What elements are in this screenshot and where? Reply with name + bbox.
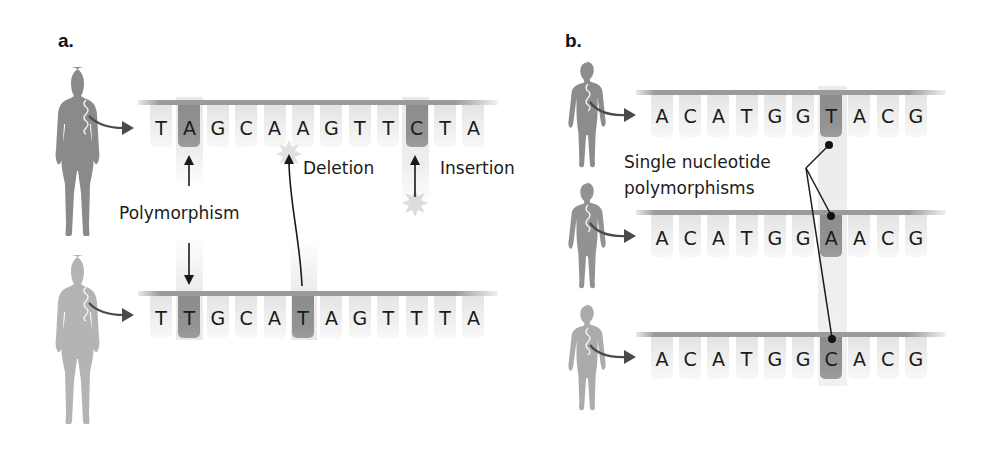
snp-dot-1 bbox=[825, 141, 833, 149]
snp-connector-lines bbox=[0, 0, 990, 450]
snp-dot-2 bbox=[827, 212, 835, 220]
snp-dot-3 bbox=[828, 335, 836, 343]
snp-label-line1: Single nucleotide bbox=[624, 151, 771, 173]
snp-label-line2: polymorphisms bbox=[624, 177, 755, 199]
